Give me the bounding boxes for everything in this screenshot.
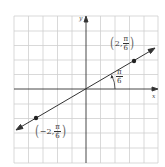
line-arrow-lower-icon (16, 125, 23, 131)
point1-theta: π 6 (123, 35, 130, 52)
point-neg2-pi6 (34, 116, 38, 120)
angle-label: π 6 (116, 68, 123, 85)
point2-r: −2, (40, 128, 54, 136)
angle-arc (112, 76, 115, 89)
point-label-neg2-pi6: ( −2, π 6 ) (34, 123, 67, 140)
point1-r: 2, (115, 40, 123, 48)
polar-graph (0, 0, 165, 167)
point-2-pi6 (132, 59, 136, 63)
y-axis-label: y (79, 14, 82, 21)
y-axis-arrow-icon (84, 16, 88, 22)
x-axis-arrow-icon (152, 87, 158, 91)
axes (14, 16, 158, 163)
line-arrow-upper-icon (148, 48, 155, 54)
point2-theta: π 6 (54, 123, 61, 140)
point-label-2-pi6: ( 2, π 6 ) (109, 35, 135, 52)
x-axis-label: x (152, 92, 155, 99)
